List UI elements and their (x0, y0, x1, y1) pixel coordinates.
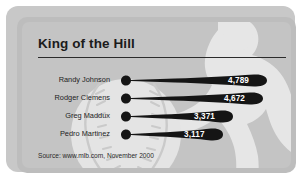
bar-row: Pedro Martinez 3,117 (22, 126, 291, 144)
bar-value: 4,672 (224, 94, 245, 103)
chart-card-body: King of the Hill Randy Johnson 4,789 Rod… (17, 17, 296, 173)
bar-label: Randy Johnson (22, 75, 110, 84)
bar-row: Rodger Clemens 4,672 (22, 90, 291, 108)
chart-card-inner: King of the Hill Randy Johnson 4,789 Rod… (22, 22, 291, 168)
bar-value: 4,789 (228, 76, 249, 85)
title-divider (38, 57, 286, 58)
bar-label: Pedro Martinez (22, 129, 110, 138)
chart-card-frame: King of the Hill Randy Johnson 4,789 Rod… (6, 6, 295, 172)
bat-bar (115, 108, 235, 125)
bat-bar (115, 126, 225, 143)
source-note: Source: www.mlb.com, November 2000 (38, 152, 154, 159)
bar-value: 3,117 (184, 130, 205, 139)
bar-label: Greg Maddux (22, 111, 110, 120)
bar-row: Greg Maddux 3,371 (22, 108, 291, 126)
bar-label: Rodger Clemens (22, 93, 110, 102)
bar-chart: Randy Johnson 4,789 Rodger Clemens (22, 72, 291, 144)
page-title: King of the Hill (38, 36, 135, 51)
bar-value: 3,371 (194, 112, 215, 121)
bar-row: Randy Johnson 4,789 (22, 72, 291, 90)
